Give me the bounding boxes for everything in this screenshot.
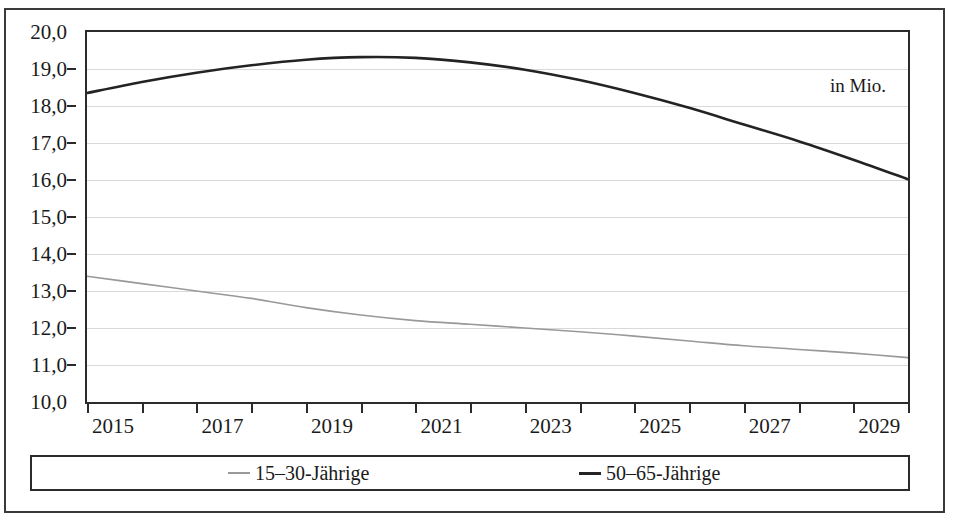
x-tick-label: 2021	[420, 414, 462, 438]
y-tick-mark	[67, 68, 76, 70]
x-tick-mark	[470, 404, 472, 413]
y-tick-mark	[67, 142, 76, 144]
x-tick-mark	[415, 404, 417, 413]
y-tick-label: 18,0	[30, 96, 67, 117]
x-tick-label: 2027	[749, 414, 791, 438]
x-tick-mark	[525, 404, 527, 413]
y-tick-label: 13,0	[30, 281, 67, 302]
y-tick-label: 20,0	[30, 22, 67, 43]
x-tick-mark	[87, 404, 89, 413]
x-tick-mark	[142, 404, 144, 413]
x-tick-label: 2017	[201, 414, 243, 438]
legend-item-label: 50–65-Jährige	[606, 462, 720, 484]
x-tick-label: 2015	[92, 414, 134, 438]
y-tick-mark	[67, 327, 76, 329]
legend: 15–30-Jährige50–65-Jährige	[30, 455, 910, 491]
x-tick-label: 2025	[639, 414, 681, 438]
x-tick-mark	[306, 404, 308, 413]
x-tick-mark	[361, 404, 363, 413]
plot-area: in Mio.	[85, 30, 910, 404]
x-tick-label: 2023	[530, 414, 572, 438]
series-line-older	[87, 57, 908, 179]
series-line-young	[87, 276, 908, 357]
x-tick-mark	[196, 404, 198, 413]
y-tick-label: 11,0	[31, 355, 67, 376]
x-tick-mark	[908, 404, 910, 413]
x-tick-mark	[799, 404, 801, 413]
x-tick-mark	[744, 404, 746, 413]
y-tick-label: 17,0	[30, 133, 67, 154]
x-axis-ticks	[85, 404, 910, 413]
y-axis: 20,019,018,017,016,015,014,013,012,011,0…	[10, 30, 76, 404]
x-tick-mark	[689, 404, 691, 413]
y-tick-mark	[67, 364, 76, 366]
y-tick-label: 19,0	[30, 59, 67, 80]
x-axis: 20152017201920212023202520272029	[85, 414, 910, 444]
y-tick-label: 15,0	[30, 207, 67, 228]
x-tick-mark	[251, 404, 253, 413]
y-tick-mark	[67, 216, 76, 218]
y-tick-mark	[67, 179, 76, 181]
data-lines-svg	[87, 32, 908, 402]
y-tick-label: 16,0	[30, 170, 67, 191]
x-tick-mark	[853, 404, 855, 413]
x-tick-mark	[634, 404, 636, 413]
legend-item[interactable]: 15–30-Jährige	[228, 462, 369, 484]
y-tick-label: 10,0	[30, 392, 67, 413]
y-tick-label: 12,0	[30, 318, 67, 339]
unit-annotation-label: in Mio.	[830, 76, 886, 96]
x-tick-mark	[580, 404, 582, 413]
x-tick-label: 2019	[311, 414, 353, 438]
y-tick-mark	[67, 290, 76, 292]
y-tick-mark	[67, 253, 76, 255]
y-tick-label: 14,0	[30, 244, 67, 265]
legend-item-label: 15–30-Jährige	[255, 462, 369, 484]
legend-line-swatch-icon	[579, 472, 601, 475]
legend-item[interactable]: 50–65-Jährige	[579, 462, 720, 484]
y-tick-mark	[67, 105, 76, 107]
figure-container: 20,019,018,017,016,015,014,013,012,011,0…	[0, 0, 953, 520]
x-tick-label: 2029	[858, 414, 900, 438]
legend-line-swatch-icon	[228, 472, 250, 474]
